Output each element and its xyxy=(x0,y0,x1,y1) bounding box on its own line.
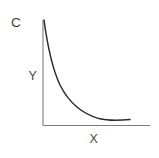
x-axis-label: X xyxy=(90,132,99,146)
y-axis-label: Y xyxy=(29,69,38,83)
decay-plot: C Y X xyxy=(0,0,159,158)
corner-label: C xyxy=(11,15,21,30)
chart-figure: C Y X xyxy=(0,0,159,158)
decay-curve xyxy=(44,20,130,120)
